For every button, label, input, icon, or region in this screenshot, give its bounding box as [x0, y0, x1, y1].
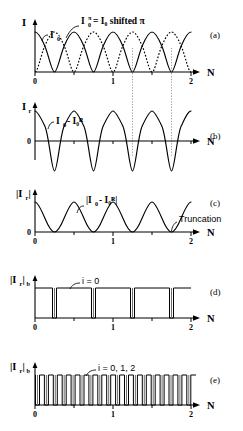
panel-c-x-arrowhead	[193, 229, 200, 234]
panel-c-curve-label-base: |I	[86, 195, 92, 205]
panel-e-y-axis-label-close: |	[23, 361, 25, 372]
panel-d-binary-trace	[35, 288, 191, 318]
panel-letter-c: (c)	[210, 198, 220, 208]
panel-e-notches	[38, 375, 189, 405]
panel-b-curve-label-difference: I 0 - I₀ᴿ	[56, 116, 84, 128]
panel-b-y-axis-label-sub: r	[29, 107, 32, 114]
panel-c-y-arrowhead	[33, 189, 38, 195]
panel-c-ticklabel-1: 1	[111, 237, 115, 246]
panel-a-curve-label-shifted-sub: 0	[88, 21, 91, 28]
panel-letter-e: (e)	[210, 375, 220, 385]
panel-d-y-axis-label: |I r | b	[10, 274, 31, 287]
panel-a-curve-label-shifted-sup: π	[88, 14, 92, 21]
panel-b-y-axis-label-base: I	[22, 101, 26, 112]
panel-a-curve-label-i0: I 0	[50, 30, 60, 42]
truncation-annotation: Truncation	[179, 214, 221, 224]
panel-d-x-arrowhead	[193, 315, 200, 320]
panel-b-curve-label-tail: - I₀ᴿ	[67, 116, 84, 126]
panel-d-y-arrowhead	[33, 275, 38, 281]
panel-c-ticklabel-2: 2	[189, 237, 193, 246]
panel-d-y-axis-label-sub2: b	[27, 280, 31, 287]
panel-b-x-arrowhead	[193, 138, 200, 143]
panel-d-ticklabel-2: 2	[189, 323, 193, 332]
panel-b-zero-label: 0	[27, 137, 31, 146]
panel-b-leader	[48, 122, 54, 129]
panel-e-ticklabel-1: 1	[111, 410, 115, 419]
panel-d-y-axis-label-close: |	[23, 274, 25, 285]
panel-c-leader-truncation	[172, 222, 178, 231]
panel-letter-d: (d)	[210, 287, 221, 297]
panel-a-ticklabel-1: 1	[111, 77, 115, 86]
panel-a: 0 1 2 I N I 0 I 0 π = I₀ shifted π (a)	[22, 14, 220, 87]
panel-letter-a: (a)	[210, 30, 220, 40]
panel-c-curve-label-sub: 0	[95, 200, 98, 207]
panel-a-y-axis-label: I	[22, 17, 26, 28]
panel-d-y-axis-label-base: |I	[10, 274, 16, 285]
panel-c-y-axis-label-close: |	[29, 188, 31, 199]
panel-letter-b: (b)	[210, 131, 221, 141]
panel-b-y-arrowhead	[33, 102, 38, 108]
panel-a-curve-label-i0-base: I	[50, 30, 54, 40]
panel-c-ticklabel-0: 0	[33, 237, 37, 246]
panel-c-curve-abs-difference	[35, 202, 191, 232]
panel-b: I r 0 N I 0 - I₀ᴿ (b)	[22, 101, 221, 171]
panel-d-ticklabel-0: 0	[33, 323, 37, 332]
panel-c-y-axis-label-base: |I	[16, 188, 22, 199]
panel-b-curve-label-sub: 0	[63, 121, 66, 128]
panel-a-x-axis-label: N	[207, 67, 215, 78]
panel-e-i-label: i = 0, 1, 2	[98, 363, 135, 373]
panel-e-y-axis-label-sub2: b	[27, 367, 31, 374]
panel-a-ticklabel-0: 0	[33, 77, 37, 86]
panel-e: |I r | b 0 1 2 N i = 0, 1, 2 (e)	[10, 361, 220, 419]
panel-a-x-arrowhead	[193, 69, 200, 74]
panel-a-curve-label-shifted-base: I	[81, 16, 85, 26]
panel-d-ticklabel-1: 1	[111, 323, 115, 332]
panel-c: |I r | 0 0 1 2 N |I 0 - I₀ᴿ| Truncation …	[16, 188, 221, 246]
panel-c-zero-label: 0	[27, 228, 31, 237]
panel-c-curve-label-abs-difference: |I 0 - I₀ᴿ|	[86, 195, 117, 207]
panel-e-y-arrowhead	[33, 362, 38, 368]
panel-a-curve-label-shifted-tail: = I₀ shifted π	[93, 16, 146, 26]
panel-e-ticklabel-0: 0	[33, 410, 37, 419]
panel-a-ticklabel-2: 2	[189, 77, 193, 86]
panel-c-curve-label-tail: - I₀ᴿ|	[99, 195, 117, 205]
panel-e-y-axis-label-base: |I	[10, 361, 16, 372]
panel-a-curve-label-i0-shifted: I 0 π = I₀ shifted π	[81, 14, 146, 28]
panel-a-curve-label-i0-sub: 0	[57, 35, 60, 42]
panel-e-x-axis-label: N	[207, 400, 215, 411]
panel-c-x-axis-label: N	[207, 227, 215, 238]
panel-c-y-axis-label: |I r |	[16, 188, 31, 201]
panel-d-x-axis-label: N	[207, 313, 215, 324]
panel-b-curve-label-base: I	[56, 116, 60, 126]
panel-e-ticklabel-2: 2	[189, 410, 193, 419]
panel-a-y-arrowhead	[33, 19, 38, 25]
panel-e-y-axis-label: |I r | b	[10, 361, 31, 374]
panel-e-binary-trace	[35, 375, 196, 405]
panel-d-i-label: i = 0	[82, 276, 99, 286]
figure-container: 0 1 2 I N I 0 I 0 π = I₀ shifted π (a)	[0, 0, 243, 431]
panel-d: |I r | b 0 1 2 N i = 0 (d)	[10, 274, 221, 332]
panel-e-x-arrowhead	[193, 402, 200, 407]
